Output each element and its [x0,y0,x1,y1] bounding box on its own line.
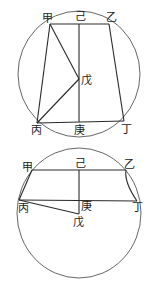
bottom-label-bing: 丙 [18,202,29,215]
top-label-ding: 丁 [121,123,132,136]
top-chord-bing-ding [37,121,124,123]
top-line-jia-bing [37,24,50,123]
bottom-label-ji: 己 [75,157,86,170]
top-line-jia-wu [50,24,79,79]
bottom-label-jia: 甲 [22,161,33,174]
top-label-geng: 庚 [74,123,85,137]
top-line-bing-wu [37,79,79,123]
top-label-jia: 甲 [42,12,53,25]
bottom-label-yi: 乙 [124,158,135,171]
bottom-chord-bing-ding [19,200,137,201]
bottom-label-geng: 庚 [81,199,92,213]
top-label-yi: 乙 [106,11,117,24]
bottom-label-wu: 戊 [73,216,84,229]
top-label-wu: 戊 [81,74,92,87]
top-figure: 甲 己 乙 戊 丙 庚 丁 [18,10,140,137]
bottom-figure: 甲 己 乙 丙 庚 丁 戊 [17,148,143,278]
geometry-diagrams: 甲 己 乙 戊 丙 庚 丁 甲 己 乙 丙 庚 丁 戊 [0,0,156,301]
top-label-bing: 丙 [31,124,42,137]
bottom-label-ding: 丁 [132,201,143,214]
top-label-ji: 己 [75,10,86,23]
top-line-yi-ding [109,24,124,121]
bottom-line-jia-bing [19,170,32,200]
